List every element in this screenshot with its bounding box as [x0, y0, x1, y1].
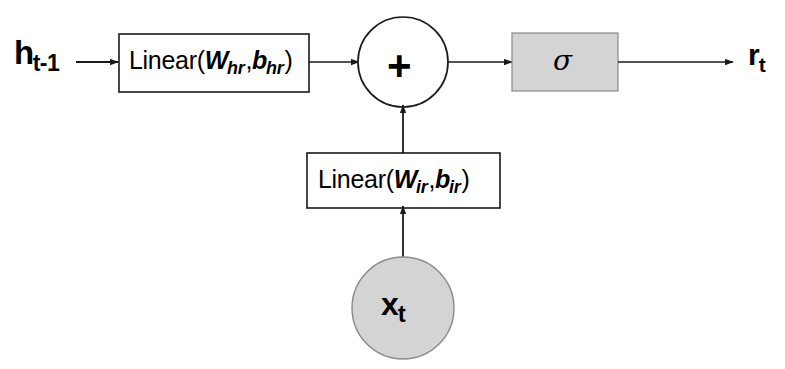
label-linear-ir-bias-sub: ir — [449, 177, 460, 197]
label-linear-hr-bias-sub: hr — [266, 58, 283, 78]
label-reset-gate-output: rt — [748, 40, 767, 70]
label-reset-gate-base: r — [748, 38, 760, 71]
label-input-x: xt — [381, 288, 407, 320]
plus-icon: + — [387, 45, 412, 87]
label-linear-ir-weight: W — [394, 165, 417, 193]
label-linear-hr-weight-sub: hr — [227, 58, 244, 78]
label-linear-ir-bias: b — [435, 165, 450, 193]
diagram-canvas: ht-1 Linear(Whr,bhr) + σ rt Linear(Wir,b… — [0, 0, 785, 369]
label-hidden-state-subscript: t-1 — [33, 50, 60, 76]
label-linear-ir-weight-sub: ir — [416, 177, 427, 197]
label-hidden-state-base: h — [14, 34, 34, 71]
label-input-x-base: x — [381, 286, 399, 322]
sigma-icon: σ — [553, 47, 572, 75]
label-linear-hr-weight: W — [205, 46, 228, 74]
label-linear-ir-suffix: ) — [461, 165, 469, 193]
label-hidden-state: ht-1 — [14, 36, 60, 69]
label-linear-hr-prefix: Linear( — [129, 46, 205, 74]
label-input-x-subscript: t — [398, 300, 406, 327]
label-reset-gate-subscript: t — [759, 53, 766, 76]
label-linear-hr: Linear(Whr,bhr) — [129, 48, 293, 73]
label-linear-hr-suffix: ) — [284, 46, 292, 74]
label-linear-ir: Linear(Wir,bir) — [318, 167, 470, 192]
label-linear-hr-bias: b — [252, 46, 267, 74]
label-linear-ir-prefix: Linear( — [318, 165, 394, 193]
